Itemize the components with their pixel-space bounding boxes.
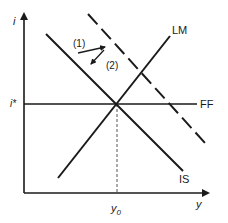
arrow-1-label: (1) [73, 39, 85, 49]
y0-subscript: 0 [117, 208, 121, 217]
lm-label: LM [172, 25, 187, 36]
is-label: IS [179, 174, 189, 185]
y-axis-label: i [13, 16, 15, 27]
i-star-label: i* [10, 99, 16, 109]
shifted-is-curve [88, 14, 205, 143]
is-curve [46, 34, 183, 171]
arrow-2-label: (2) [106, 61, 118, 71]
ff-label: FF [200, 99, 213, 110]
y0-label: y0 [111, 203, 121, 217]
is-lm-ff-diagram: i i* LM FF IS (1) (2) y y0 [0, 0, 228, 223]
diagram-graphics [0, 0, 228, 223]
lm-curve [58, 36, 170, 178]
x-axis-label: y [196, 199, 202, 210]
arrow-2 [91, 50, 104, 64]
